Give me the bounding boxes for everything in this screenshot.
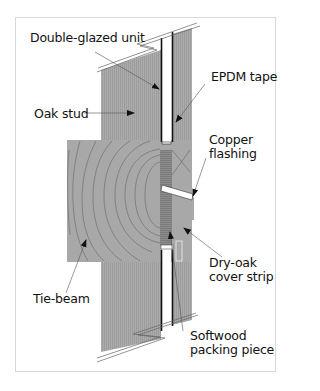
- leader-copper: [193, 158, 206, 196]
- label-softwood: Softwood: [190, 329, 247, 342]
- label-double-glazed-unit: Double-glazed unit: [30, 31, 145, 44]
- label-oak-stud: Oak stud: [34, 107, 88, 120]
- label-epdm-tape: EPDM tape: [211, 70, 277, 83]
- label-packing-piece: packing piece: [190, 343, 274, 356]
- label-dry-oak: Dry-oak: [209, 256, 257, 269]
- tie-beam: [67, 140, 192, 262]
- label-flashing: flashing: [209, 147, 257, 160]
- label-cover-strip: cover strip: [209, 270, 273, 283]
- label-copper: Copper: [209, 133, 253, 146]
- dry-oak-core: [160, 150, 172, 246]
- double-glazed-unit-top: [162, 30, 173, 144]
- label-tie-beam: Tie-beam: [33, 292, 90, 305]
